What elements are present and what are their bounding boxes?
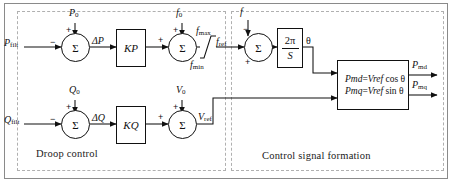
fraction-bar [282,48,299,49]
sum-symbol: Σ [72,119,78,131]
label-p-filt: Pfilt [4,38,18,49]
equation-row-pmq: Pmq=Vref sin θ [345,86,404,96]
sum-symbol: Σ [255,42,261,54]
gain-block-kq: KQ [116,106,146,144]
integrator-numerator: 2π [282,35,299,46]
label-p-md: Pmd [412,60,427,71]
gain-kp-label: KP [124,42,138,54]
sum-symbol: Σ [179,119,185,131]
gain-block-kp: KP [116,29,146,67]
summing-junction-q: Σ [61,110,90,139]
label-theta: θ [306,36,311,46]
label-delta-q: ΔQ [92,113,105,123]
sum-symbol: Σ [72,42,78,54]
summing-junction-f: Σ [168,33,197,62]
sum-symbol: Σ [179,42,185,54]
panel-label-droop-control: Droop control [36,148,98,159]
label-q-filt: Qfilt [4,115,19,126]
integrator-fraction: 2π S [282,35,299,60]
label-p-mq: Pmq [412,80,427,91]
sign-f-minus: − [243,25,248,34]
summing-junction-v: Σ [168,110,197,139]
label-f-min: fmin [190,60,204,71]
equation-row-pmd: Pmd=Vref cos θ [345,74,405,84]
saturation-curve [200,36,216,58]
sign-deltaq-plus: + [158,113,163,122]
label-v-ref: Vref [198,112,212,123]
wire-vref-to-eqbox [197,98,337,124]
sign-q0-plus: + [66,103,71,112]
diagram-canvas: Σ Σ Σ Σ Σ + − + + − + + − + + KP KQ 2π S… [0,0,453,183]
sign-f0-plus: + [173,26,178,35]
label-p-zero: P0 [69,8,79,19]
sign-v0-plus: + [173,103,178,112]
sign-fref-plus: + [245,58,250,67]
label-f-measured: f [240,7,243,17]
output-equation-block: Pmd=Vref cos θ Pmq=Vref sin θ [337,60,409,110]
label-f-ref: fref [216,37,227,48]
gain-kq-label: KQ [123,119,138,131]
label-q-zero: Q0 [69,85,80,96]
integrator-denominator: S [284,50,295,61]
wire-theta-to-eqbox [303,47,337,73]
label-delta-p: ΔP [92,36,104,46]
sign-pfilt-minus: − [50,38,55,47]
sign-deltap-plus: + [158,36,163,45]
integrator-block: 2π S [277,28,303,68]
panel-label-control-signal-formation: Control signal formation [262,150,371,161]
label-f-max: fmax [196,26,211,37]
sign-qfilt-minus: − [50,115,55,124]
sign-p0-plus: + [66,26,71,35]
label-v-zero: V0 [176,85,186,96]
label-f-zero: f0 [176,8,182,19]
summing-junction-p: Σ [61,33,90,62]
